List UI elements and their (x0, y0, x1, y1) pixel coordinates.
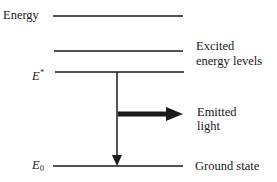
emitted-light-arrow-head (166, 107, 183, 121)
ground-state-label: Ground state (195, 160, 259, 173)
emitted-light-label-line2: light (197, 120, 220, 133)
e0-subscript: 0 (40, 163, 44, 173)
excited-levels-label-line2: energy levels (196, 55, 262, 68)
excited-state-symbol: E* (32, 66, 44, 83)
estar-superscript: * (40, 68, 44, 77)
emitted-light-arrow-shaft (118, 112, 168, 117)
estar-symbol: E (32, 69, 40, 83)
energy-level-diagram (0, 0, 277, 182)
ground-state-symbol: E0 (32, 159, 44, 175)
e0-symbol: E (32, 158, 40, 172)
energy-axis-label: Energy (3, 9, 39, 22)
transition-arrow-head (112, 155, 122, 166)
emitted-light-label-line1: Emitted (197, 106, 237, 119)
excited-levels-label-line1: Excited (196, 40, 234, 53)
